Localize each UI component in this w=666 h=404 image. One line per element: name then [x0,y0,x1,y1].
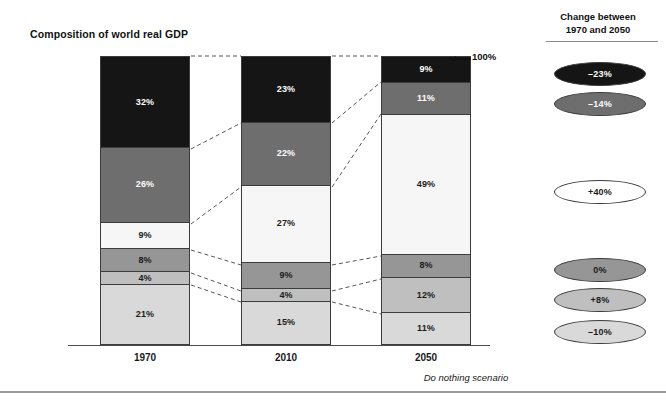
change-pill-europe[interactable]: –23% [554,62,646,86]
segment-2050-latin-america[interactable]: 8% [382,255,470,279]
segment-value: 27% [277,219,295,228]
segment-value: 21% [136,310,154,319]
segment-1970-developing-asia[interactable]: 9% [101,223,189,249]
segment-1970-europe[interactable]: 32% [101,57,189,148]
segment-2050-north-america[interactable]: 11% [382,83,470,115]
change-panel: Change between 1970 and 2050 –23% –14% +… [530,0,666,380]
segment-value: 11% [417,324,435,333]
segment-2050-rest-of-world[interactable]: 11% [382,313,470,344]
plot-area: Europe North America Developing Asia (ex… [0,0,530,380]
segment-2010-developing-asia[interactable]: 27% [242,186,330,263]
change-value: –10% [588,328,612,337]
segment-value: 4% [279,291,292,300]
stacked-bar-2010[interactable]: 23% 22% 27% 9% 4% 15% [241,56,331,345]
x-tick-1970: 1970 [100,352,190,363]
segment-value: 9% [419,65,432,74]
stacked-bar-1970[interactable]: 32% 26% 9% 8% 4% 21% [100,56,190,345]
change-pill-rest-of-world[interactable]: –10% [554,320,646,344]
segment-value: 8% [138,256,151,265]
change-pill-africa[interactable]: +8% [554,288,646,312]
footer-divider [0,391,666,393]
segment-1970-rest-of-world[interactable]: 21% [101,285,189,344]
x-tick-2010: 2010 [241,352,331,363]
segment-value: 11% [417,94,435,103]
segment-value: 12% [417,291,435,300]
change-pill-developing-asia[interactable]: +40% [554,180,646,204]
callout-100-percent: 100% [472,51,496,62]
exhibit-canvas: Composition of world real GDP Europe Nor… [0,0,666,404]
segment-value: 49% [417,180,435,189]
segment-2010-north-america[interactable]: 22% [242,123,330,186]
segment-2050-developing-asia[interactable]: 49% [382,115,470,254]
change-panel-divider [546,41,658,42]
x-tick-2050: 2050 [381,352,471,363]
segment-value: 22% [277,149,295,158]
change-value: –14% [588,100,612,109]
change-value: +40% [588,188,612,197]
segment-2010-latin-america[interactable]: 9% [242,263,330,289]
segment-value: 9% [138,231,151,240]
segment-value: 26% [136,180,154,189]
callout-arrow-icon [450,55,472,63]
change-value: –23% [588,70,612,79]
segment-1970-north-america[interactable]: 26% [101,148,189,222]
segment-2010-africa[interactable]: 4% [242,289,330,301]
segment-2010-europe[interactable]: 23% [242,57,330,123]
segment-value: 9% [279,271,292,280]
segment-value: 8% [419,261,432,270]
segment-1970-latin-america[interactable]: 8% [101,249,189,273]
change-panel-title: Change between 1970 and 2050 [530,11,666,36]
x-axis-line [68,345,490,346]
segment-1970-africa[interactable]: 4% [101,272,189,284]
segment-value: 32% [136,98,154,107]
stacked-bar-2050[interactable]: 9% 11% 49% 8% 12% 11% [381,56,471,345]
segment-value: 15% [277,318,295,327]
segment-value: 23% [277,85,295,94]
segment-2050-africa[interactable]: 12% [382,278,470,313]
change-value: 0% [593,266,606,275]
change-value: +8% [591,296,610,305]
segment-2010-rest-of-world[interactable]: 15% [242,302,330,344]
change-pill-latin-america[interactable]: 0% [554,258,646,282]
scenario-note: Do nothing scenario [381,372,551,383]
change-pill-north-america[interactable]: –14% [554,92,646,116]
segment-value: 4% [138,274,151,283]
